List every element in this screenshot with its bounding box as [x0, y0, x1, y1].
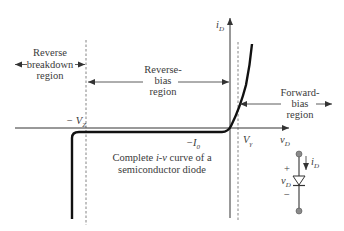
svg-text:breakdown: breakdown [27, 59, 74, 70]
diode-current-label: iD [311, 156, 319, 170]
diode-circuit-symbol [293, 151, 306, 214]
svg-text:Complete i-v curve of a: Complete i-v curve of a [112, 152, 211, 163]
svg-text:vD: vD [281, 175, 291, 189]
reverse-breakdown-region-label: Reverse breakdown region [27, 47, 74, 81]
reverse-bias-region-label: Reverse- bias region [144, 64, 182, 97]
svg-text:Forward-: Forward- [280, 87, 320, 98]
svg-text:region: region [37, 70, 65, 81]
cathode-terminal [296, 208, 302, 214]
neg-vz-label: − VZ [66, 115, 86, 129]
svg-text:− VZ: − VZ [66, 115, 86, 129]
svg-text:iD: iD [216, 19, 224, 33]
svg-text:region: region [150, 86, 178, 97]
anode-terminal [296, 151, 302, 157]
y-axis-label: iD [216, 19, 224, 33]
neg-i0-label: −I0 [186, 137, 201, 151]
diode-voltage-label: vD [281, 175, 291, 189]
svg-text:semiconductor diode: semiconductor diode [118, 164, 206, 175]
figure-caption: Complete i-v curve of a semiconductor di… [112, 152, 211, 175]
svg-text:iD: iD [311, 156, 319, 170]
svg-text:Reverse-: Reverse- [144, 64, 182, 75]
diode-triangle-icon [293, 176, 305, 185]
plus-sign: + [284, 163, 290, 174]
svg-text:Reverse: Reverse [33, 47, 67, 58]
svg-text:vD: vD [280, 134, 290, 148]
svg-text:Vγ: Vγ [243, 134, 252, 148]
x-axis-label: vD [280, 134, 290, 148]
minus-sign: − [284, 189, 290, 200]
diode-iv-diagram: iD vD − VZ −I0 Vγ Reverse breakdown regi… [0, 0, 344, 231]
svg-text:region: region [287, 109, 315, 120]
forward-bias-region-label: Forward- bias region [280, 87, 320, 120]
svg-text:−I0: −I0 [186, 137, 201, 151]
vgamma-label: Vγ [243, 134, 252, 148]
svg-text:bias: bias [292, 98, 309, 109]
svg-text:bias: bias [155, 75, 172, 86]
